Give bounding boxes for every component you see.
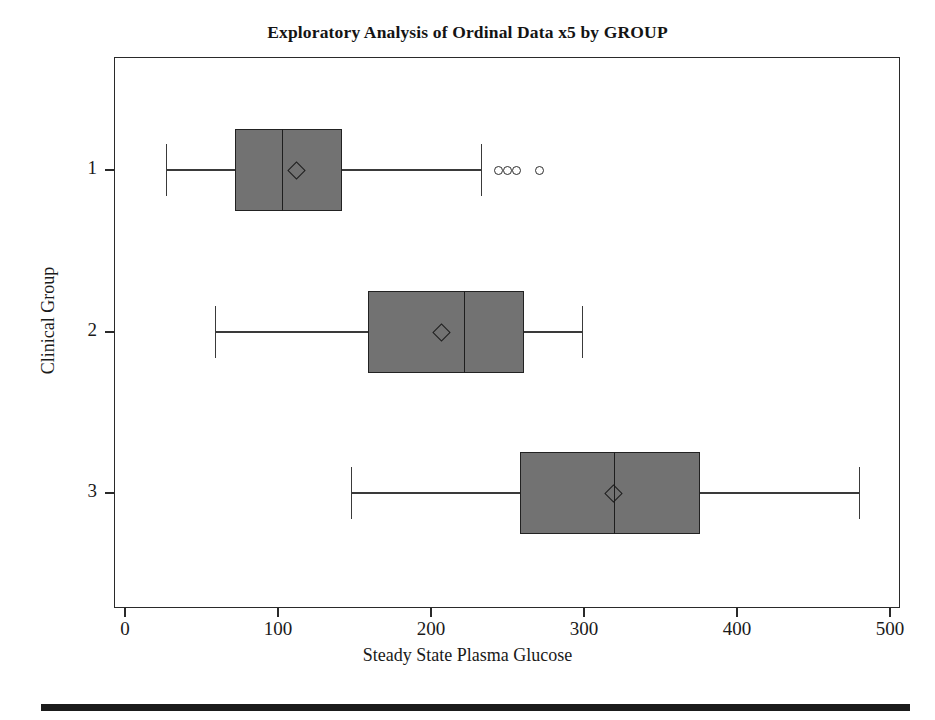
box-plot-group: [0, 0, 935, 720]
whisker-line-high: [700, 492, 859, 493]
whisker-cap-high: [859, 467, 861, 519]
whisker-cap-low: [351, 467, 353, 519]
figure-canvas: Exploratory Analysis of Ordinal Data x5 …: [0, 0, 935, 720]
whisker-line-low: [351, 492, 519, 493]
